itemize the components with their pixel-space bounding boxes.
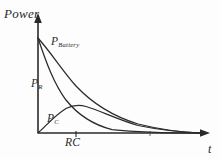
curve-p-c: [38, 106, 201, 133]
y-axis-label: Power: [4, 7, 39, 20]
curve-label-p-r-subscript: R: [38, 83, 42, 90]
power-vs-time-figure: Power t RC PBattery PR PC: [0, 0, 220, 159]
curve-label-p-c-subscript: C: [54, 118, 59, 125]
curve-label-p-battery-base: P: [51, 35, 58, 47]
x-tick-label-rc: RC: [65, 137, 80, 149]
curve-label-p-r-base: P: [31, 77, 38, 89]
curve-label-p-c: PC: [47, 113, 59, 125]
curve-label-p-c-base: P: [47, 112, 54, 124]
curve-label-p-battery-subscript: Battery: [58, 41, 79, 48]
curve-label-p-r: PR: [31, 78, 42, 90]
curve-label-p-battery: PBattery: [51, 36, 79, 48]
x-axis-label: t: [208, 143, 211, 155]
